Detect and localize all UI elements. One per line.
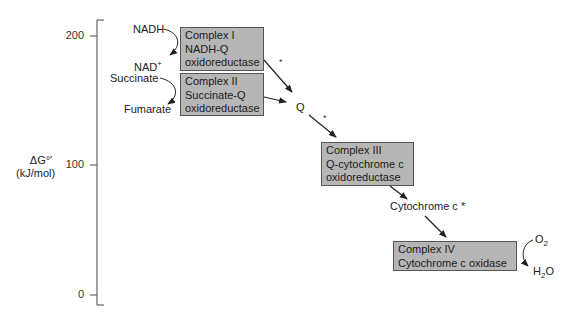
arrow-complex3-to-cytc [390, 186, 407, 199]
y-axis-label-units: (kJ/mol) [16, 167, 55, 180]
succinate-curve-arrow [160, 78, 176, 104]
arrow-complex1-to-q [264, 60, 292, 92]
y-tick-100: 100 [54, 158, 84, 170]
complex-1-name: NADH-Q [185, 43, 259, 57]
arrow-complex2-to-q [264, 97, 286, 102]
complex-4-title: Complex IV [398, 243, 512, 257]
complex-4-box: Complex IV Cytochrome c oxidase [393, 241, 517, 271]
complex-1-type: oxidoreductase [185, 56, 259, 70]
complex-1-box: Complex I NADH-Q oxidoreductase [180, 27, 264, 71]
complex-4-name: Cytochrome c oxidase [398, 257, 512, 271]
y-axis-label-dg: ΔG°′ [24, 154, 58, 167]
q-label: Q [296, 101, 305, 114]
complex-2-type: oxidoreductase [185, 102, 259, 116]
proton-pump-star-2: * [323, 113, 327, 123]
complex-3-type: oxidoreductase [326, 171, 409, 185]
y-axis [90, 20, 104, 305]
complex-2-box: Complex II Succinate-Q oxidoreductase [180, 73, 264, 116]
proton-pump-star-1: * [279, 57, 283, 67]
y-tick-200: 200 [54, 29, 84, 41]
succinate-label: Succinate [110, 72, 158, 85]
nadh-label: NADH [133, 23, 164, 36]
o2-curve-arrow [523, 240, 533, 266]
fumarate-label: Fumarate [124, 103, 171, 116]
o2-label: O2 [535, 233, 548, 250]
y-tick-0: 0 [54, 288, 84, 300]
cytochrome-c-label: Cytochrome c * [390, 200, 465, 213]
complex-3-name: Q-cytochrome c [326, 158, 409, 172]
h2o-label: H2O [533, 265, 554, 282]
complex-3-box: Complex III Q-cytochrome c oxidoreductas… [321, 142, 414, 186]
nadh-curve-arrow [164, 29, 178, 55]
arrow-cytc-to-complex4 [425, 216, 446, 237]
complex-2-title: Complex II [185, 75, 259, 89]
complex-1-title: Complex I [185, 29, 259, 43]
complex-3-title: Complex III [326, 144, 409, 158]
complex-2-name: Succinate-Q [185, 89, 259, 103]
